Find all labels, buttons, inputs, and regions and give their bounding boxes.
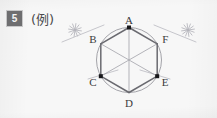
hexagon-construction-figure: ABCDEF — [0, 0, 217, 118]
arc-cross-right — [181, 23, 196, 38]
hexagon-edge-AB — [101, 28, 129, 44]
construction-ray-0 — [62, 25, 104, 42]
vertex-dot-E — [155, 74, 159, 78]
vertex-label-F: F — [162, 33, 168, 45]
arc-cross-left — [68, 23, 83, 38]
hexagon-diagonals-group — [101, 28, 157, 93]
vertex-dot-C — [99, 74, 103, 78]
construction-ray-1 — [154, 25, 196, 42]
vertex-label-C: C — [89, 76, 96, 88]
vertex-label-B: B — [89, 33, 96, 45]
vertex-dot-A — [127, 26, 131, 30]
hexagon-edge-CD — [101, 76, 129, 92]
figure-page: 5 (例) ABCDEF — [0, 0, 217, 118]
hexagon-edge-DE — [129, 76, 157, 92]
hexagon-edge-FA — [129, 28, 157, 44]
vertex-label-D: D — [125, 97, 133, 109]
vertex-label-E: E — [162, 76, 169, 88]
vertex-label-A: A — [125, 14, 133, 26]
